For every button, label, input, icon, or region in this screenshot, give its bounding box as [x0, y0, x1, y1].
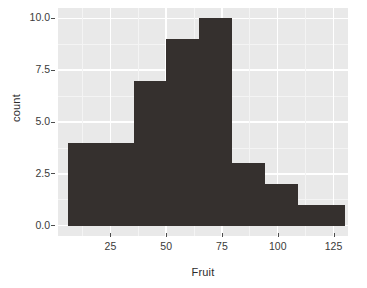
x-tick-mark	[110, 233, 111, 237]
y-tick-mark	[51, 173, 55, 174]
x-tick-label: 50	[146, 240, 186, 252]
x-tick: 25	[110, 232, 111, 233]
y-tick: 10.0	[0, 18, 50, 19]
x-tick-mark	[222, 233, 223, 237]
histogram-bar	[199, 18, 232, 225]
y-tick-label: 2.5	[16, 168, 50, 178]
x-tick: 50	[166, 232, 167, 233]
x-tick: 75	[222, 232, 223, 233]
y-tick: 7.5	[0, 70, 50, 71]
x-tick-mark	[278, 233, 279, 237]
x-tick-label: 125	[314, 240, 354, 252]
x-tick-label: 75	[202, 240, 242, 252]
y-axis-title: count	[10, 78, 22, 138]
y-tick: 5.0	[0, 122, 50, 123]
x-tick-mark	[334, 233, 335, 237]
x-tick: 125	[334, 232, 335, 233]
x-axis-title: Fruit	[58, 266, 348, 278]
histogram-bar	[298, 205, 331, 226]
histogram-bar	[68, 143, 134, 226]
y-tick: 2.5	[0, 174, 50, 175]
y-tick-mark	[51, 70, 55, 71]
y-tick-mark	[51, 18, 55, 19]
histogram-chart: 0.02.55.07.510.0 255075100125 count Frui…	[0, 0, 367, 288]
y-tick-label: 7.5	[16, 64, 50, 74]
plot-panel	[58, 8, 348, 236]
histogram-bar	[331, 205, 344, 226]
y-tick-mark	[51, 225, 55, 226]
x-tick-label: 100	[258, 240, 298, 252]
gridline-x-major	[333, 8, 334, 236]
x-tick-mark	[166, 233, 167, 237]
histogram-bar	[265, 184, 298, 225]
y-tick-mark	[51, 122, 55, 123]
y-tick-label: 0.0	[16, 220, 50, 230]
x-tick-label: 25	[90, 240, 130, 252]
y-tick-label: 10.0	[16, 12, 50, 22]
gridline-x-minor	[305, 8, 306, 236]
histogram-bar	[134, 81, 167, 226]
y-tick: 0.0	[0, 226, 50, 227]
histogram-bar	[166, 39, 199, 226]
x-tick: 100	[278, 232, 279, 233]
histogram-bar	[232, 163, 265, 225]
